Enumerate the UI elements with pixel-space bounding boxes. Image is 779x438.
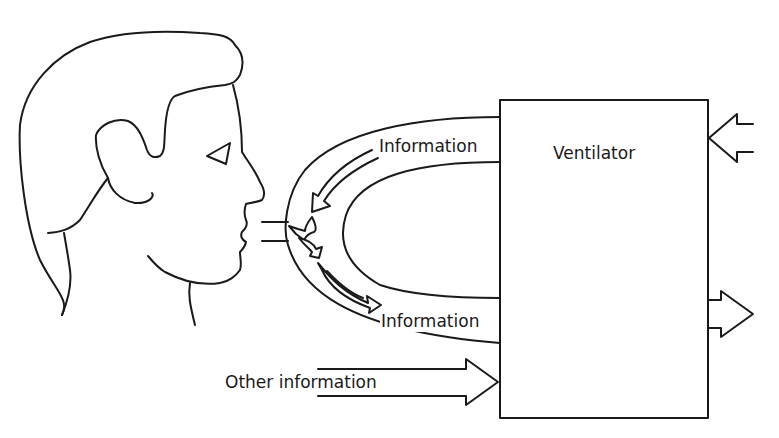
- ventilator-diagram: Information Information Ventilator Other…: [0, 0, 779, 438]
- ventilator-label: Ventilator: [553, 143, 635, 163]
- external-input-arrow: [709, 114, 753, 162]
- inbound-information-arrow: [312, 150, 378, 212]
- outbound-information-arrow: [318, 263, 381, 313]
- other-information-label: Other information: [225, 372, 377, 392]
- output-arrow: [709, 291, 753, 337]
- loop-top-label: Information: [379, 136, 477, 156]
- patient-head-illustration: [20, 32, 264, 325]
- exchange-arrows: [289, 217, 322, 258]
- airway-tube: [262, 222, 288, 241]
- loop-bottom-label: Information: [381, 311, 479, 331]
